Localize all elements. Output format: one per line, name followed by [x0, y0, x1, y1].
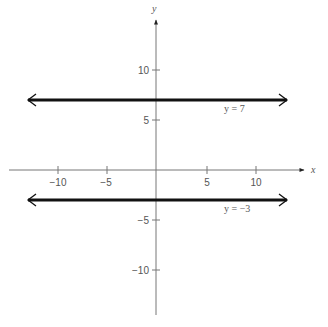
- line-label-y-neg3: y = −3: [224, 203, 250, 214]
- x-tick-label: 5: [204, 177, 210, 188]
- y-axis-label: y: [151, 3, 157, 14]
- y-tick-label: −5: [138, 215, 150, 226]
- line-y-equals-7: y = 7: [28, 94, 287, 114]
- x-tick-label: −10: [50, 177, 67, 188]
- x-axis-label: x: [310, 164, 316, 175]
- y-tick-label: 10: [138, 65, 150, 76]
- line-label-y7: y = 7: [224, 103, 245, 114]
- x-tick-label: −5: [100, 177, 112, 188]
- y-tick-label: −10: [132, 265, 149, 276]
- y-tick-label: 5: [143, 115, 149, 126]
- coordinate-plane: x y −10 −5 5 10 10 5 −5 −10 y = 7 y = −3: [0, 0, 328, 327]
- line-y-equals-neg3: y = −3: [28, 194, 287, 214]
- x-tick-label: 10: [250, 177, 262, 188]
